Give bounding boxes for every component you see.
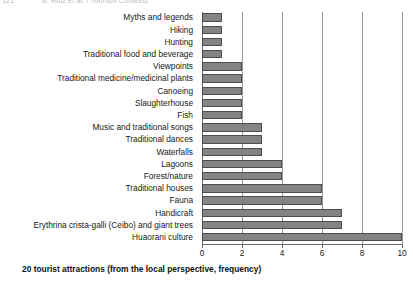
- bar-row: [202, 208, 402, 220]
- bar: [202, 233, 402, 241]
- category-label: Lagoons: [161, 159, 193, 171]
- bar-row: [202, 25, 402, 37]
- x-tick-label-10: 10: [392, 248, 412, 258]
- bar-row: [202, 12, 402, 24]
- bar-row: [202, 171, 402, 183]
- x-tick-label-2: 2: [232, 248, 252, 258]
- bar: [202, 148, 262, 156]
- bar: [202, 38, 222, 46]
- category-label: Hiking: [170, 25, 193, 37]
- page-folio: 122: [2, 0, 14, 4]
- bar-row: [202, 86, 402, 98]
- category-label: Fauna: [169, 195, 193, 207]
- category-label: Traditional medicine/medicinal plants: [57, 73, 193, 85]
- bar: [202, 184, 322, 192]
- bar-row: [202, 232, 402, 244]
- bar: [202, 196, 322, 204]
- bar-row: [202, 134, 402, 146]
- bar: [202, 87, 242, 95]
- figure-caption: 20 tourist attractions (from the local p…: [22, 264, 261, 274]
- bar: [202, 99, 242, 107]
- bar-row: [202, 159, 402, 171]
- bar-row: [202, 37, 402, 49]
- bar: [202, 62, 242, 70]
- x-tick-label-4: 4: [272, 248, 292, 258]
- category-label: Fish: [177, 110, 193, 122]
- bar: [202, 26, 222, 34]
- category-label: Hunting: [164, 37, 193, 49]
- gridline-10: [402, 12, 403, 244]
- bar: [202, 50, 222, 58]
- bar-row: [202, 49, 402, 61]
- x-axis-baseline: [202, 244, 403, 245]
- bar-row: [202, 61, 402, 73]
- category-label: Huaorani culture: [132, 232, 193, 244]
- page-running-header: 122 S. Ruiz et al. / Tourism Contexts: [0, 0, 413, 9]
- category-label: Canoeing: [157, 86, 193, 98]
- category-label: Forest/nature: [144, 171, 193, 183]
- bar: [202, 123, 262, 131]
- bar: [202, 135, 262, 143]
- category-label: Waterfalls: [156, 147, 193, 159]
- category-label: Viewpoints: [153, 61, 193, 73]
- bar-row: [202, 147, 402, 159]
- category-label: Myths and legends: [123, 12, 193, 24]
- bar-row: [202, 220, 402, 232]
- bar: [202, 111, 242, 119]
- category-label-column: Myths and legendsHikingHuntingTraditiona…: [0, 12, 196, 244]
- bar-row: [202, 183, 402, 195]
- bar-row: [202, 122, 402, 134]
- bar-row: [202, 195, 402, 207]
- x-axis: 0246810: [0, 244, 413, 260]
- plot-area: [202, 12, 402, 244]
- category-label: Erythrina crista-galli (Ceibo) and giant…: [33, 220, 193, 232]
- x-tick-label-6: 6: [312, 248, 332, 258]
- bar-row: [202, 110, 402, 122]
- bar: [202, 209, 342, 217]
- x-tick-label-0: 0: [192, 248, 212, 258]
- running-title: S. Ruiz et al. / Tourism Contexts: [42, 0, 148, 4]
- x-tick-label-8: 8: [352, 248, 372, 258]
- category-label: Music and traditional songs: [92, 122, 193, 134]
- bar: [202, 13, 222, 21]
- bar: [202, 172, 282, 180]
- bar-row: [202, 98, 402, 110]
- bar: [202, 74, 242, 82]
- bar: [202, 221, 342, 229]
- category-label: Handicraft: [155, 208, 193, 220]
- category-label: Traditional dances: [126, 134, 194, 146]
- category-label: Traditional food and beverage: [83, 49, 193, 61]
- category-label: Traditional houses: [126, 183, 194, 195]
- category-label: Slaughterhouse: [135, 98, 193, 110]
- bar-row: [202, 73, 402, 85]
- horizontal-bar-chart: Myths and legendsHikingHuntingTraditiona…: [0, 12, 413, 244]
- bar: [202, 160, 282, 168]
